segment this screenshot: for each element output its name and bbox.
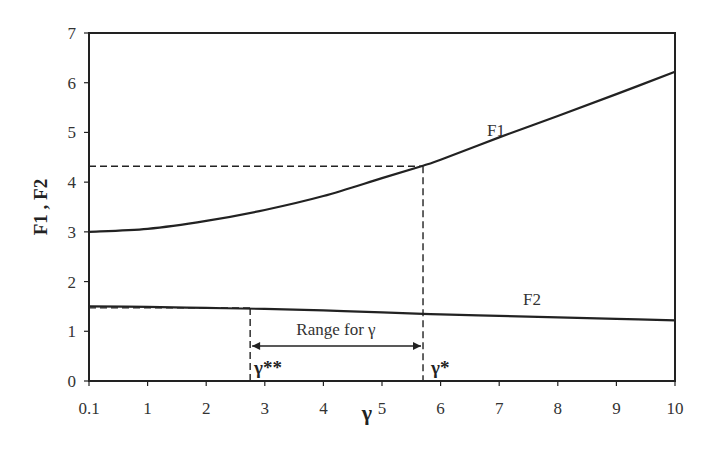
series-f2-line	[89, 306, 675, 320]
x-tick-label: 0.1	[78, 399, 99, 418]
range-arrow-left-head	[252, 342, 260, 350]
axes: 012345670.112345678910	[68, 24, 684, 418]
x-tick-label: 10	[667, 399, 684, 418]
plot-frame	[89, 33, 675, 381]
x-tick-label: 8	[554, 399, 563, 418]
y-axis-label: F1 , F2	[30, 179, 51, 235]
x-tick-label: 9	[612, 399, 621, 418]
gamma-double-star-label: γ**	[253, 357, 282, 378]
x-tick-label: 5	[378, 399, 387, 418]
f1-series-label: F1	[487, 121, 505, 140]
x-tick-label: 4	[319, 399, 328, 418]
y-tick-label: 3	[68, 223, 77, 242]
y-tick-label: 6	[68, 74, 77, 93]
y-tick-label: 7	[68, 24, 77, 43]
x-tick-label: 3	[261, 399, 270, 418]
x-tick-label: 2	[202, 399, 211, 418]
x-tick-label: 6	[436, 399, 445, 418]
x-tick-label: 7	[495, 399, 504, 418]
range-arrow-right-head	[413, 342, 421, 350]
x-axis-label: γ	[361, 400, 372, 425]
chart: 012345670.112345678910 F1 , F2 γ F1 F2 R…	[0, 0, 718, 452]
y-tick-label: 5	[68, 123, 77, 142]
range-label: Range for γ	[296, 320, 376, 339]
x-tick-label: 1	[143, 399, 152, 418]
plot-area	[89, 72, 675, 381]
series-f1-line	[89, 72, 675, 232]
y-tick-label: 1	[68, 322, 77, 341]
y-tick-label: 0	[68, 372, 77, 391]
y-tick-label: 2	[68, 273, 77, 292]
gamma-star-label: γ*	[430, 357, 449, 378]
y-tick-label: 4	[68, 173, 77, 192]
f2-series-label: F2	[523, 290, 541, 309]
